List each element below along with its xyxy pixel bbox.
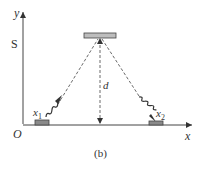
detector2-sub: 2 (161, 113, 165, 122)
dashed-ray-left (58, 39, 98, 104)
detector1-sub: 1 (38, 112, 42, 121)
detector2-label: x2 (156, 108, 165, 122)
diagram-canvas: y S d x1 x2 O x (b) (0, 0, 202, 175)
photon-right (139, 93, 156, 114)
source-label: S (11, 38, 18, 50)
distance-arrowhead-top (97, 38, 103, 44)
x-axis-label: x (185, 130, 190, 142)
detector1-label: x1 (33, 107, 42, 121)
origin-label: O (13, 128, 22, 140)
distance-label: d (103, 80, 109, 91)
caption: (b) (94, 148, 107, 159)
top-plate (84, 33, 116, 38)
y-axis-label: y (14, 7, 19, 19)
distance-arrowhead-bottom (97, 118, 103, 124)
photon-left (42, 100, 65, 117)
